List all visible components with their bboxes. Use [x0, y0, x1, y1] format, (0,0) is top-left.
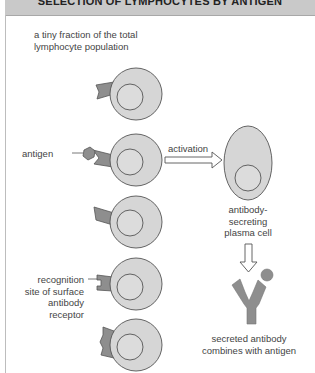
population-label-line: a tiny fraction of the total — [34, 29, 138, 41]
lymphocyte-1 — [96, 68, 162, 120]
secreted-label-line: combines with antigen — [190, 345, 308, 357]
lymphocyte-4 — [88, 258, 162, 310]
recognition-label-line: receptor — [10, 309, 84, 321]
bound-antigen — [261, 269, 273, 281]
plasma-cell-label-line: secreting — [218, 216, 278, 228]
population-label-line: lymphocyte population — [34, 41, 138, 53]
secreted-antibody — [232, 269, 273, 324]
recognition-site-label: recognition site of surface antibody rec… — [10, 274, 84, 320]
nucleus — [117, 84, 143, 110]
lymphocyte-3 — [94, 196, 162, 248]
plasma-cell-label-line: antibody- — [218, 204, 278, 216]
antigen-label: antigen — [22, 148, 53, 160]
population-label: a tiny fraction of the total lymphocyte … — [34, 29, 138, 52]
antigen-particle — [83, 147, 95, 160]
plasma-cell-label-line: plasma cell — [218, 227, 278, 239]
recognition-label-line: site of surface — [10, 286, 84, 298]
lymphocyte-antigen-bound — [72, 134, 162, 186]
nucleus — [117, 149, 143, 175]
plasma-cell — [224, 126, 272, 200]
recognition-label-line: antibody — [10, 297, 84, 309]
secreted-label-line: secreted antibody — [190, 333, 308, 345]
secreted-antibody-label: secreted antibody combines with antigen — [190, 333, 308, 356]
nucleus — [117, 334, 143, 360]
nucleus — [117, 274, 143, 300]
nucleus — [235, 165, 261, 191]
plasma-cell-label: antibody- secreting plasma cell — [218, 204, 278, 239]
recognition-label-line: recognition — [10, 274, 84, 286]
nucleus — [117, 210, 143, 236]
activation-label: activation — [168, 143, 208, 155]
secretion-arrow — [240, 244, 257, 272]
lymphocyte-5 — [100, 319, 162, 371]
